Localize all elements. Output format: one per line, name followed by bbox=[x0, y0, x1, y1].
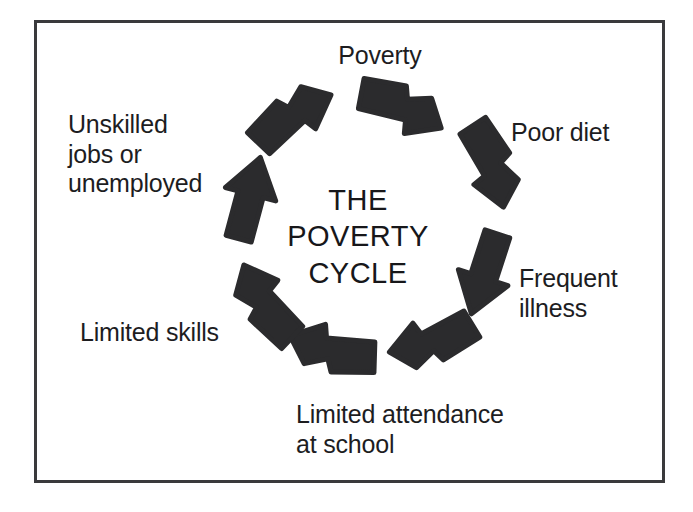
node-label-limited-attendance: Limited attendance at school bbox=[296, 400, 596, 459]
node-label-poor-diet: Poor diet bbox=[511, 118, 681, 148]
center-caption: THE POVERTY CYCLE bbox=[258, 182, 458, 291]
node-label-limited-skills: Limited skills bbox=[80, 318, 310, 348]
node-label-unskilled-jobs: Unskilled jobs or unemployed bbox=[68, 110, 268, 199]
poverty-cycle-figure: THE POVERTY CYCLE Poverty Poor diet Freq… bbox=[0, 0, 693, 512]
node-label-poverty: Poverty bbox=[300, 41, 460, 71]
node-label-frequent-illness: Frequent illness bbox=[519, 264, 679, 323]
